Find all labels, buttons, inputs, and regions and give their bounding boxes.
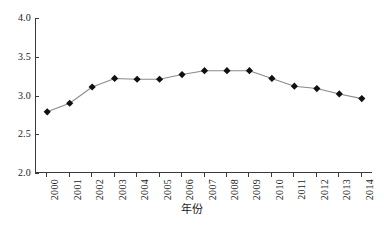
y-axis-tick-mark [35, 96, 39, 97]
x-axis-tick-label: 2002 [95, 179, 105, 200]
series-line-and-markers [36, 18, 373, 173]
data-point-marker [223, 67, 230, 74]
y-axis-tick-mark [35, 18, 39, 19]
x-axis-tick-label: 2004 [140, 179, 150, 200]
x-axis-tick-mark [361, 173, 362, 177]
x-axis-tick-label: 2005 [163, 179, 173, 200]
x-axis-tick-label: 2008 [230, 179, 240, 200]
x-axis-tick-mark [271, 173, 272, 177]
x-axis-tick-label: 2007 [208, 179, 218, 200]
y-axis-tick-label-group: 2.02.53.03.54.0 [0, 0, 31, 227]
plot-area [35, 18, 372, 173]
x-axis-tick-label: 2006 [185, 179, 195, 200]
y-axis-tick-label: 3.0 [18, 91, 31, 101]
x-axis-tick-mark [316, 173, 317, 177]
x-axis-tick-mark [159, 173, 160, 177]
x-axis-tick-mark [204, 173, 205, 177]
series-line [47, 71, 362, 112]
x-axis-tick-mark [293, 173, 294, 177]
data-point-marker [358, 95, 365, 102]
x-axis-tick-label: 2010 [275, 179, 285, 200]
x-axis-tick-label: 2000 [50, 179, 60, 200]
x-axis-tick-mark [46, 173, 47, 177]
y-axis-tick-mark [35, 57, 39, 58]
data-point-marker [89, 83, 96, 90]
y-axis-tick-mark [35, 173, 39, 174]
x-axis-title: 年份 [0, 204, 384, 216]
x-axis-tick-mark [338, 173, 339, 177]
data-point-marker [178, 71, 185, 78]
line-chart: 2.02.53.03.54.0 年份 200020012002200320042… [0, 0, 384, 227]
data-point-marker [201, 67, 208, 74]
x-axis-tick-mark [114, 173, 115, 177]
x-axis-tick-label: 2011 [297, 179, 307, 200]
data-point-marker [246, 67, 253, 74]
y-axis-tick-label: 4.0 [18, 13, 31, 23]
x-axis-tick-label: 2013 [342, 179, 352, 200]
x-axis-tick-mark [69, 173, 70, 177]
y-axis-tick-mark [35, 134, 39, 135]
x-axis-tick-label: 2012 [320, 179, 330, 200]
data-point-marker [111, 75, 118, 82]
x-axis-tick-label: 2003 [118, 179, 128, 200]
data-point-marker [291, 83, 298, 90]
x-axis-tick-label: 2014 [365, 179, 375, 200]
y-axis-tick-label: 2.5 [18, 129, 31, 139]
x-axis-tick-mark [248, 173, 249, 177]
data-point-marker [134, 76, 141, 83]
x-axis-tick-mark [226, 173, 227, 177]
x-axis-tick-label: 2001 [73, 179, 83, 200]
data-point-marker [66, 100, 73, 107]
data-point-marker [44, 108, 51, 115]
data-point-marker [268, 75, 275, 82]
x-axis-tick-mark [181, 173, 182, 177]
x-axis-tick-mark [136, 173, 137, 177]
data-point-marker [313, 85, 320, 92]
data-point-marker [336, 90, 343, 97]
x-axis-tick-label: 2009 [252, 179, 262, 200]
y-axis-tick-label: 3.5 [18, 52, 31, 62]
y-axis-tick-label: 2.0 [18, 168, 31, 178]
x-axis-tick-mark [91, 173, 92, 177]
data-point-marker [156, 76, 163, 83]
